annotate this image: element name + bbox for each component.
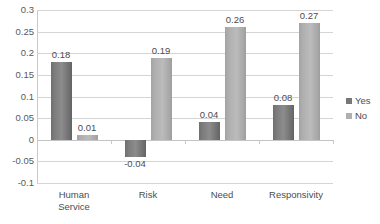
legend-swatch-icon xyxy=(346,113,352,119)
data-label: 0.19 xyxy=(140,46,183,56)
bar-no xyxy=(77,135,98,139)
x-axis-tick-mark xyxy=(259,140,260,144)
y-axis-tick-labels: 0.30.250.20.150.10.050-0.05-0.1 xyxy=(0,0,34,224)
data-label: 0.08 xyxy=(262,93,305,103)
bar-chart: 0.30.250.20.150.10.050-0.05-0.1 0.180.01… xyxy=(0,0,380,224)
bar-no xyxy=(151,58,172,140)
gridline xyxy=(37,75,333,76)
bar-no xyxy=(299,23,320,140)
x-axis-category-label: Need xyxy=(185,189,259,201)
x-axis-category-label: Risk xyxy=(111,189,185,201)
bar-yes xyxy=(273,105,294,140)
data-label: 0.01 xyxy=(66,123,109,133)
y-axis-tick-label: -0.1 xyxy=(1,178,34,188)
plot-area: 0.180.01-0.040.190.040.260.080.27 xyxy=(37,10,333,183)
x-axis-tick-mark xyxy=(111,140,112,144)
y-axis-tick-label: 0 xyxy=(1,135,34,145)
legend-label: Yes xyxy=(355,96,371,106)
y-axis-tick-label: 0.05 xyxy=(1,113,34,123)
bar-yes xyxy=(199,122,220,139)
chart-legend: YesNo xyxy=(346,93,380,123)
x-axis-tick-mark xyxy=(185,140,186,144)
y-axis-tick-label: 0.25 xyxy=(1,27,34,37)
gridline xyxy=(37,161,333,162)
y-axis-tick-label: -0.05 xyxy=(1,156,34,166)
x-axis-tick-mark xyxy=(333,140,334,144)
y-axis-tick-label: 0.3 xyxy=(1,5,34,15)
y-axis-tick-label: 0.15 xyxy=(1,70,34,80)
bar-no xyxy=(225,27,246,139)
data-label: 0.26 xyxy=(214,15,257,25)
data-label: 0.27 xyxy=(288,11,331,21)
x-axis-category-label: Human Service xyxy=(37,189,111,213)
data-label: -0.04 xyxy=(114,159,157,169)
legend-item-yes[interactable]: Yes xyxy=(346,93,380,108)
legend-label: No xyxy=(355,111,367,121)
gridline xyxy=(37,183,333,184)
gridline xyxy=(37,32,333,33)
y-axis-tick-label: 0.1 xyxy=(1,92,34,102)
legend-swatch-icon xyxy=(346,98,352,104)
data-label: 0.18 xyxy=(40,50,83,60)
legend-item-no[interactable]: No xyxy=(346,108,380,123)
y-axis-tick-label: 0.2 xyxy=(1,48,34,58)
data-label: 0.04 xyxy=(188,110,231,120)
bar-yes xyxy=(125,140,146,157)
x-axis-category-label: Responsivity xyxy=(259,189,333,201)
